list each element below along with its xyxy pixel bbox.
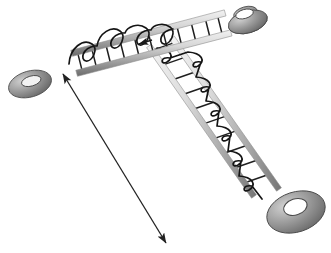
horizontal-ladder-rail-lower — [76, 30, 232, 76]
dome-bottom-right — [261, 184, 330, 241]
vertical-ladder — [147, 36, 282, 199]
dome-left — [5, 65, 54, 102]
vertical-ladder-rungs — [152, 42, 268, 182]
diagram-svg — [0, 0, 331, 253]
horizontal-ladder — [69, 10, 232, 76]
zigzag-wave-vertical — [157, 48, 262, 199]
vertical-ladder-rail-right — [170, 36, 282, 191]
diagram-canvas: Technical line drawing: an L-shaped ladd… — [0, 0, 331, 253]
double-headed-measure-arrow — [63, 74, 166, 243]
